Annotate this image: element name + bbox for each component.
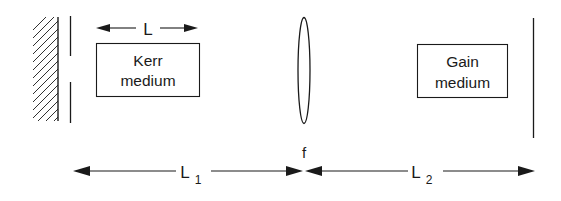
kerr-medium-label-line2: medium [120, 72, 175, 89]
gain-medium-box: Gain medium [418, 45, 508, 98]
gain-medium-label-line2: medium [435, 74, 490, 91]
kerr-length-arrow: L [96, 20, 198, 39]
gain-medium-label-line1: Gain [446, 53, 479, 70]
left-end-mirror [33, 5, 58, 142]
laser-cavity-diagram: L Kerr medium f Gain medium L 1 L 2 [0, 0, 561, 201]
distance-l1-label: L [180, 163, 189, 182]
focusing-lens: f [298, 18, 310, 162]
distance-l1-arrow: L 1 [73, 163, 303, 187]
kerr-medium-box: Kerr medium [97, 44, 200, 97]
kerr-medium-label-line1: Kerr [133, 52, 162, 69]
distance-l2-arrow: L 2 [305, 163, 535, 187]
distance-l2-subscript: 2 [426, 173, 433, 187]
kerr-length-label: L [143, 20, 152, 39]
distance-l1-subscript: 1 [195, 173, 202, 187]
lens-focal-label: f [302, 144, 307, 161]
distance-l2-label: L [411, 163, 420, 182]
